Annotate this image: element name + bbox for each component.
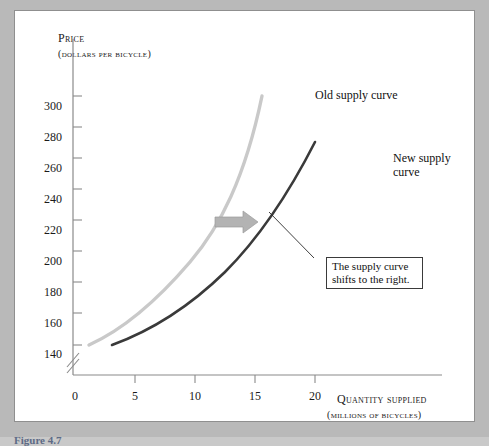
supply-curve-plot — [15, 11, 475, 422]
figure-frame: Price (dollars per bicycle) Quantity sup… — [0, 0, 489, 437]
x-tick-marks — [135, 375, 315, 383]
old-supply-curve-label: Old supply curve — [315, 88, 398, 102]
shift-callout-line1: The supply curve — [332, 260, 424, 273]
new-supply-curve-label-line2: curve — [393, 165, 451, 179]
shift-callout-line2: shifts to the right. — [332, 273, 424, 286]
figure-panel: Price (dollars per bicycle) Quantity sup… — [14, 10, 475, 422]
new-supply-curve-label: New supply curve — [393, 151, 451, 179]
callout-leader-line — [269, 212, 314, 258]
new-supply-curve-label-line1: New supply — [393, 151, 451, 165]
shift-callout-text: The supply curve shifts to the right. — [332, 260, 424, 286]
shift-callout-box: The supply curve shifts to the right. — [326, 257, 423, 289]
new-supply-curve — [112, 142, 315, 345]
y-tick-marks — [73, 96, 82, 345]
figure-caption-text: Figure 4.7 — [14, 437, 61, 446]
figure-caption-strip: Figure 4.7 — [0, 437, 489, 446]
